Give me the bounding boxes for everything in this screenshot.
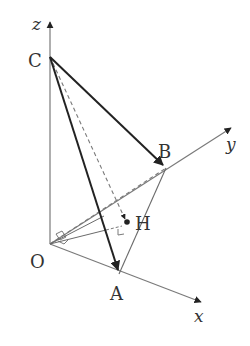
label-H: H (135, 213, 151, 234)
label-B: B (158, 141, 171, 162)
tetrahedron-diagram: z y x C B H O A (0, 0, 250, 346)
label-y: y (225, 134, 236, 154)
x-axis (50, 244, 201, 302)
label-C: C (28, 50, 42, 71)
edge-H-dashed-link (106, 226, 122, 230)
right-angle-mark-H (118, 229, 124, 235)
point-H (124, 219, 130, 225)
label-A: A (109, 283, 124, 304)
label-z: z (31, 14, 42, 34)
label-x: x (194, 306, 204, 326)
edge-CH-dashed (50, 57, 125, 219)
edge-OH-upper (50, 216, 104, 244)
label-O: O (30, 251, 45, 272)
